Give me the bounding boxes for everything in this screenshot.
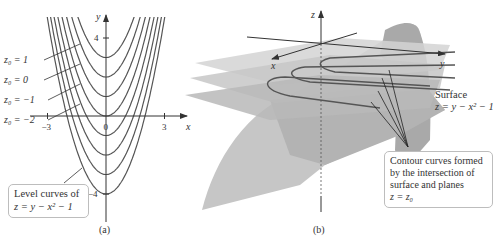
callout-b-line1: Contour curves formed xyxy=(390,155,490,167)
surface-label: Surface z = y − x² − 1 xyxy=(435,89,494,113)
surface-label-line2: z = y − x² − 1 xyxy=(435,101,494,113)
y-axis-label-3d: y xyxy=(439,58,445,69)
surface-label-line1: Surface xyxy=(435,89,494,101)
panel-b-caption: (b) xyxy=(313,224,325,236)
callout-b-line3: surface and planes xyxy=(390,179,490,191)
x-axis-label-3d: x xyxy=(270,60,276,71)
callout-b-line4: z = z₀ xyxy=(390,191,490,203)
z-axis-label: z xyxy=(310,9,315,20)
callout-b-line2: by the intersection of xyxy=(390,167,490,179)
contour-curves-callout: Contour curves formed by the intersectio… xyxy=(384,151,493,208)
